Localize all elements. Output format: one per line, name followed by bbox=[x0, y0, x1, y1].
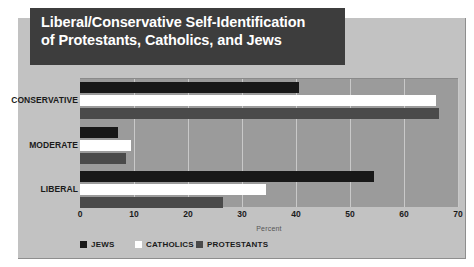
bar-moderate-protestants bbox=[80, 153, 126, 164]
value-axis-ticks: 010203040506070 bbox=[80, 209, 458, 222]
chart-title-banner: Liberal/Conservative Self-Identification… bbox=[30, 8, 345, 65]
xtick-label-20: 20 bbox=[183, 209, 192, 219]
bar-liberal-protestants bbox=[80, 197, 223, 208]
xtick-label-60: 60 bbox=[399, 209, 408, 219]
xtick-label-0: 0 bbox=[78, 209, 83, 219]
legend-item-jews[interactable]: JEWS bbox=[80, 240, 114, 249]
value-axis-title: Percent bbox=[80, 225, 458, 232]
xtick-label-30: 30 bbox=[237, 209, 246, 219]
category-axis-labels: CONSERVATIVEMODERATELIBERAL bbox=[0, 78, 78, 207]
plot-area bbox=[80, 78, 458, 207]
xtick-label-10: 10 bbox=[129, 209, 138, 219]
xtick-label-70: 70 bbox=[453, 209, 462, 219]
legend-item-protestants[interactable]: PROTESTANTS bbox=[196, 240, 268, 249]
category-label-liberal: LIBERAL bbox=[2, 184, 78, 194]
bar-moderate-jews bbox=[80, 127, 118, 138]
bar-liberal-jews bbox=[80, 171, 374, 182]
bar-liberal-catholics bbox=[80, 184, 266, 195]
legend-swatch-jews-icon bbox=[80, 241, 87, 248]
legend-item-catholics[interactable]: CATHOLICS bbox=[135, 240, 194, 249]
legend-label-protestants: PROTESTANTS bbox=[207, 240, 268, 249]
category-label-moderate: MODERATE bbox=[2, 140, 78, 150]
bar-group-moderate bbox=[80, 127, 458, 166]
bar-group-conservative bbox=[80, 82, 458, 121]
xtick-label-40: 40 bbox=[291, 209, 300, 219]
bar-conservative-catholics bbox=[80, 95, 436, 106]
gridline-70 bbox=[458, 79, 459, 207]
page-title-line-1: Liberal/Conservative Self-Identification bbox=[41, 14, 335, 32]
bar-group-liberal bbox=[80, 171, 458, 210]
xtick-label-50: 50 bbox=[345, 209, 354, 219]
legend-label-jews: JEWS bbox=[91, 240, 114, 249]
category-label-conservative: CONSERVATIVE bbox=[2, 95, 78, 105]
bar-conservative-jews bbox=[80, 82, 299, 93]
legend-label-catholics: CATHOLICS bbox=[146, 240, 194, 249]
bar-conservative-protestants bbox=[80, 108, 439, 119]
legend-swatch-catholics-icon bbox=[135, 241, 142, 248]
legend-swatch-protestants-icon bbox=[196, 241, 203, 248]
chart-figure: Liberal/Conservative Self-Identification… bbox=[0, 0, 474, 267]
bar-moderate-catholics bbox=[80, 140, 131, 151]
page-title-line-2: of Protestants, Catholics, and Jews bbox=[41, 32, 335, 50]
